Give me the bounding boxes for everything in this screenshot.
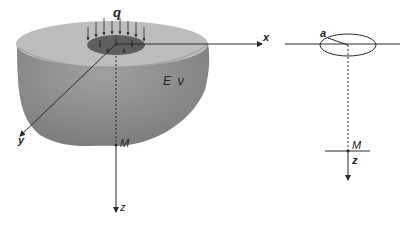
radius-label: a — [320, 28, 326, 39]
y-axis-label: y — [18, 135, 24, 146]
point-label: M — [120, 138, 129, 149]
z-axis-label: z — [120, 202, 126, 213]
point-m-marker — [115, 144, 118, 147]
x-axis-label: x — [263, 32, 269, 43]
schematic — [285, 34, 400, 180]
diagram-canvas — [0, 0, 411, 229]
figure: q x y z E ν M a M z — [0, 0, 411, 229]
point-label-right: M — [352, 140, 361, 151]
load-label: q — [113, 6, 121, 19]
z-axis-label-right: z — [352, 155, 358, 166]
material-label: E ν — [163, 75, 184, 87]
point-m-marker-right — [347, 150, 350, 153]
